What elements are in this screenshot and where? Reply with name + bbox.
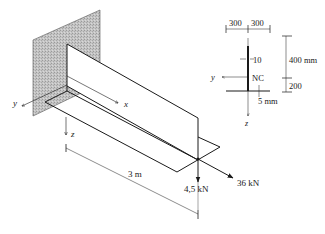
- neutral-axis-label: NC: [252, 73, 264, 83]
- z-axis: z: [66, 117, 75, 139]
- axial-load-label: 36 kN: [237, 178, 260, 188]
- upper-height-label: 400 mm: [289, 55, 317, 65]
- web-thickness-label: 10: [253, 55, 262, 65]
- cross-section: 300 300 z 10 y NC 5 mm 400 mm 200: [210, 18, 317, 128]
- y-axis-label: y: [12, 98, 17, 108]
- flange-thickness-label: 5 mm: [258, 96, 278, 106]
- z-axis-label: z: [70, 129, 75, 139]
- lower-height-label: 200: [289, 81, 302, 91]
- vertical-load-label: 4,5 kN: [184, 184, 209, 194]
- flange-right-label: 300: [251, 18, 264, 28]
- beam-diagram: x y z 3 m 4,5 kN 36 kN: [0, 0, 325, 234]
- vertical-load: 4,5 kN: [184, 159, 209, 194]
- length-dimension: 3 m: [66, 144, 198, 219]
- length-label: 3 m: [128, 169, 142, 179]
- beam-web: [67, 44, 198, 160]
- flange-left-label: 300: [229, 18, 242, 28]
- section-y-label: y: [210, 72, 215, 82]
- section-z-label: z: [244, 119, 249, 128]
- x-axis-label: x: [123, 99, 128, 109]
